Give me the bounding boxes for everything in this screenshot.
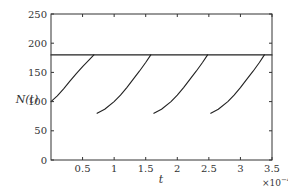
series-segment-1 — [51, 55, 94, 102]
x-tick-label: 1.5 — [138, 163, 154, 174]
plot-lines — [51, 55, 272, 113]
x-axis-ticks: 0.511.522.533.5 — [75, 14, 280, 174]
x-tick-label: 2 — [174, 163, 180, 174]
multiplier-exponent: −4 — [281, 176, 288, 184]
x-axis-label: t — [159, 173, 164, 186]
x-tick-label: 3 — [237, 163, 243, 174]
chart: 0.511.522.533.5 050100150200250 t N(t) ×… — [0, 0, 288, 193]
y-tick-label: 50 — [34, 125, 47, 136]
y-tick-label: 200 — [28, 38, 47, 49]
series-segment-2 — [97, 55, 151, 113]
x-axis-multiplier: ×10−4 — [262, 176, 288, 188]
axes-frame — [51, 14, 272, 160]
x-tick-label: 2.5 — [201, 163, 217, 174]
y-tick-label: 150 — [28, 67, 47, 78]
x-tick-label: 0.5 — [75, 163, 91, 174]
series-segment-3 — [154, 55, 208, 113]
y-tick-label: 0 — [41, 155, 47, 166]
x-tick-label: 3.5 — [264, 163, 280, 174]
x-tick-label: 1 — [111, 163, 117, 174]
multiplier-base: ×10 — [262, 178, 281, 188]
y-axis-label: N(t) — [15, 93, 39, 106]
y-tick-label: 250 — [28, 9, 47, 20]
series-segment-4 — [211, 55, 265, 113]
